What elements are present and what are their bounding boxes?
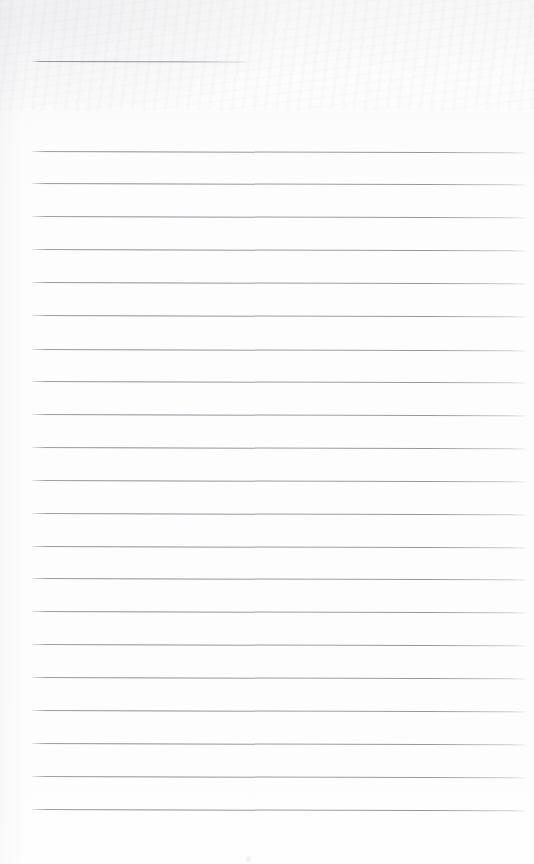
scanned-page [0, 0, 534, 864]
paper-background [0, 0, 534, 864]
